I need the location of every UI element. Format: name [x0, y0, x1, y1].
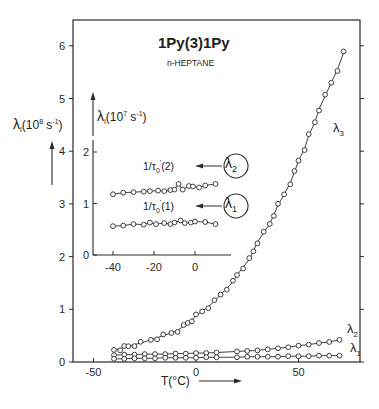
data-point	[194, 312, 199, 317]
data-point	[327, 340, 332, 345]
inset-data-point	[162, 221, 167, 226]
data-point	[183, 355, 188, 360]
data-point	[138, 339, 143, 344]
data-point	[206, 306, 211, 311]
inset-data-point	[131, 222, 136, 227]
inset-data-point	[203, 183, 208, 188]
data-point	[306, 354, 311, 359]
inset-x-tick-label: 0	[192, 261, 198, 273]
data-point	[161, 332, 166, 337]
data-point	[149, 337, 154, 342]
inset-data-point	[111, 192, 116, 197]
inset-data-point	[213, 222, 218, 227]
data-point	[265, 347, 270, 352]
annotation-tau-1: 1/τ0'(1)	[143, 199, 174, 214]
data-point	[214, 350, 219, 355]
data-point	[255, 348, 260, 353]
main-plot-border	[73, 20, 360, 362]
data-point	[190, 319, 195, 324]
data-point	[302, 148, 307, 153]
inset-data-point	[121, 223, 126, 228]
inset-data-point	[172, 220, 177, 225]
data-point	[286, 354, 291, 359]
data-point	[204, 355, 209, 360]
axis-arrows	[50, 92, 243, 384]
main-plot-frame: 0123456-50050	[59, 20, 364, 378]
chart-title: 1Py(3)1Py	[158, 34, 230, 51]
inset-data-point	[180, 187, 185, 192]
inset-data-point	[197, 185, 202, 190]
inset-data-point	[182, 221, 187, 226]
data-point	[245, 349, 250, 354]
lambda3-label: λ3	[333, 120, 344, 138]
data-point	[224, 287, 229, 292]
data-point	[296, 343, 301, 348]
data-point	[132, 356, 137, 361]
data-point	[306, 132, 311, 137]
lambda1-label: λ1	[350, 340, 361, 358]
data-point	[241, 266, 246, 271]
inset-data-point	[111, 224, 116, 229]
data-point	[126, 344, 131, 349]
data-point	[272, 214, 277, 219]
inset-y-arrow-head	[91, 92, 96, 100]
y-tick-label: 5	[59, 93, 65, 105]
inset-data-point	[193, 219, 198, 224]
data-point	[317, 341, 322, 346]
x-tick-label: 50	[292, 366, 304, 378]
inset-data-point	[156, 188, 161, 193]
data-point	[276, 346, 281, 351]
data-point	[329, 80, 334, 85]
y-tick-label: 6	[59, 40, 65, 52]
data-point	[323, 92, 328, 97]
inset-data-point	[121, 190, 126, 195]
inset-data-point	[131, 190, 136, 195]
data-point	[212, 298, 217, 303]
inset-data-point	[154, 222, 159, 227]
data-point	[122, 356, 127, 361]
data-point	[251, 249, 256, 254]
data-point	[175, 329, 180, 334]
annotation-arrow-head	[196, 164, 203, 169]
inset-x-tick-label: -40	[105, 261, 121, 273]
data-point	[153, 356, 158, 361]
data-point	[214, 355, 219, 360]
data-point	[245, 354, 250, 359]
inset-y-axis-label: λi(107 s-1)	[97, 108, 147, 126]
y-tick-label: 3	[59, 198, 65, 210]
inset-data-point	[176, 182, 181, 187]
chart-subtitle: n-HEPTANE	[167, 58, 214, 68]
data-point	[296, 158, 301, 163]
data-point	[112, 347, 117, 352]
inset-data-point	[148, 189, 153, 194]
inset-x-tick-label: -20	[146, 261, 162, 273]
y-tick-label: 2	[59, 251, 65, 263]
data-point	[341, 49, 346, 54]
inset-lambda2-circled-label: λ2	[225, 155, 237, 174]
inset-data-point	[191, 184, 196, 189]
data-point	[292, 169, 297, 174]
inset-y-tick-label: 2	[83, 146, 89, 158]
data-point	[200, 309, 205, 314]
y-tick-label: 0	[59, 356, 65, 368]
inset-data-point	[141, 222, 146, 227]
inset-lambda1-circled-label: λ1	[225, 195, 237, 214]
data-point	[276, 354, 281, 359]
data-point	[218, 292, 223, 297]
data-point	[261, 229, 266, 234]
data-point	[163, 355, 168, 360]
data-point	[267, 222, 272, 227]
main-y-axis-label: λi(108 s-1)	[13, 116, 63, 134]
data-point	[142, 356, 147, 361]
main-y-arrow-head	[50, 141, 55, 149]
inset-data-point	[162, 189, 167, 194]
data-point	[255, 241, 260, 246]
x-tick-label: 0	[193, 366, 199, 378]
annotation-arrow-head	[196, 204, 203, 209]
x-tick-label: -50	[86, 366, 102, 378]
inset-data-point	[203, 220, 208, 225]
data-point	[173, 355, 178, 360]
y-tick-label: 4	[59, 145, 65, 157]
data-point	[337, 337, 342, 342]
data-point	[313, 120, 318, 125]
